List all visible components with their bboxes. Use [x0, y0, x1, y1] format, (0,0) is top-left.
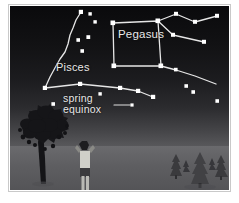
pine-tree	[191, 152, 209, 188]
person-leg-left	[82, 176, 85, 190]
annotation-label-spring-equinox: springequinox	[63, 93, 101, 115]
deciduous-tree	[18, 104, 69, 187]
constellation-label-pisces: Pisces	[56, 62, 90, 74]
person-head	[79, 141, 89, 150]
night-sky-scene: Pegasus Pisces springequinox	[10, 6, 229, 190]
person-shorts	[80, 168, 90, 177]
star-chart-figure: Pegasus Pisces springequinox	[0, 0, 239, 203]
person-leg-right	[86, 176, 89, 190]
pine-tree	[209, 158, 216, 170]
observer-person	[75, 141, 95, 190]
spring-equinox-line2: equinox	[63, 104, 101, 115]
person-shirt	[80, 151, 90, 169]
pine-tree	[183, 160, 190, 172]
pine-tree	[170, 154, 182, 179]
constellation-label-pegasus: Pegasus	[118, 28, 164, 40]
pine-tree	[215, 155, 228, 180]
pine-tree-cluster	[170, 152, 228, 190]
